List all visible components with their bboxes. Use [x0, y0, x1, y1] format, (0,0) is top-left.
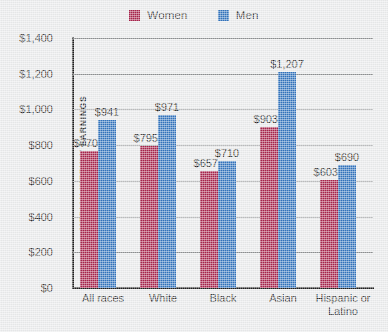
y-tick-1000: $1,000 [0, 103, 53, 115]
bar-group-4: $603$690 [313, 38, 373, 288]
bar-value-label: $903 [254, 113, 278, 126]
bar-chart: WomenMen $1,400$1,200$1,000$800$600$400$… [0, 0, 388, 332]
bar-men-3[interactable]: $1,207 [278, 72, 296, 288]
bar-value-label: $770 [74, 137, 98, 150]
bar-women-2[interactable]: $657 [200, 171, 218, 288]
y-tick-600: $600 [0, 175, 53, 187]
bar-value-label: $603 [314, 166, 338, 179]
bar-value-label: $690 [335, 151, 359, 164]
y-tick-0: $0 [0, 282, 53, 294]
legend-label-men: Men [236, 9, 259, 21]
bar-group-1: $795$971 [133, 38, 193, 288]
bar-women-0[interactable]: $770 [80, 151, 98, 289]
bar-group-3: $903$1,207 [253, 38, 313, 288]
bar-women-1[interactable]: $795 [140, 146, 158, 288]
bar-value-label: $710 [215, 147, 239, 160]
bar-women-4[interactable]: $603 [320, 180, 338, 288]
bar-men-2[interactable]: $710 [218, 161, 236, 288]
plot-area: $1,400$1,200$1,000$800$600$400$200$0 MED… [73, 38, 373, 288]
y-tick-400: $400 [0, 211, 53, 223]
bar-women-3[interactable]: $903 [260, 127, 278, 288]
bar-value-label: $795 [134, 132, 158, 145]
legend-swatch-men [218, 10, 229, 21]
bar-men-4[interactable]: $690 [338, 165, 356, 288]
chart-legend: WomenMen [0, 7, 388, 23]
y-tick-1400: $1,400 [0, 32, 53, 44]
legend-swatch-women [129, 10, 140, 21]
y-tick-800: $800 [0, 139, 53, 151]
bar-value-label: $1,207 [270, 58, 304, 71]
bar-group-0: $770$941 [73, 38, 133, 288]
y-tick-200: $200 [0, 246, 53, 258]
legend-item-men[interactable]: Men [218, 9, 259, 21]
bar-value-label: $971 [155, 101, 179, 114]
legend-label-women: Women [147, 9, 187, 21]
category-label-4: Hispanic or Latino [303, 292, 383, 318]
bar-value-label: $941 [95, 106, 119, 119]
legend-item-women[interactable]: Women [129, 9, 187, 21]
bar-group-2: $657$710 [193, 38, 253, 288]
bar-men-1[interactable]: $971 [158, 115, 176, 288]
y-tick-1200: $1,200 [0, 68, 53, 80]
bar-men-0[interactable]: $941 [98, 120, 116, 288]
